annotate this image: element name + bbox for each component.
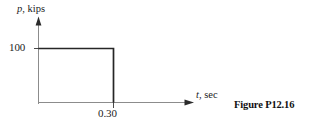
- y-axis-tick-label-100: 100: [9, 42, 25, 53]
- figure-caption: Figure P12.16: [234, 99, 294, 110]
- y-axis-label-units: , kips: [22, 3, 45, 14]
- pulse-load-curve: [39, 49, 114, 103]
- x-axis-tick-label-030: 0.30: [98, 108, 117, 119]
- x-axis-label-units: , sec: [199, 89, 218, 100]
- figure-p12-16: p, kips t, sec 100 0.30 Figure P12.16: [0, 0, 322, 128]
- x-axis-arrowhead-icon: [185, 99, 195, 105]
- x-axis-label: t, sec: [196, 90, 218, 101]
- y-axis-label: p, kips: [17, 4, 45, 15]
- y-axis-arrowhead-icon: [36, 17, 42, 26]
